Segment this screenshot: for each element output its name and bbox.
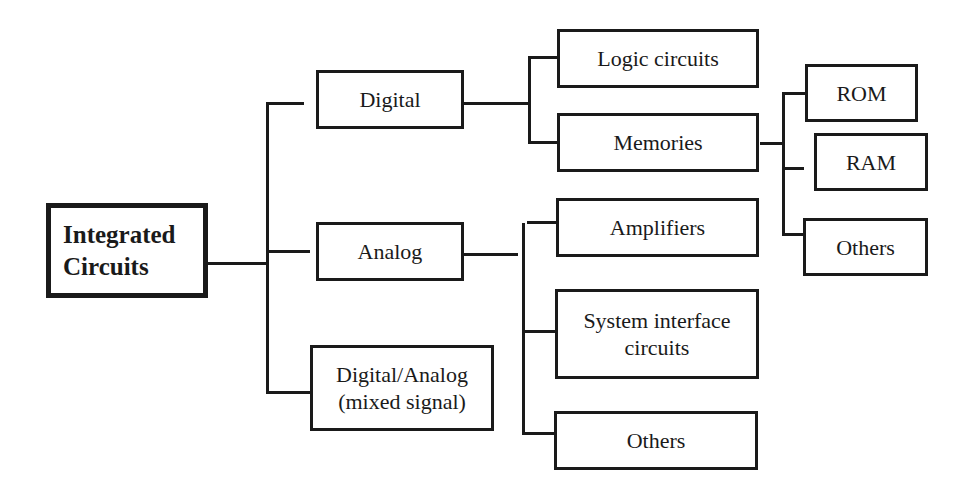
connector-analog-out: [464, 253, 518, 256]
connector-to-mixed: [266, 391, 312, 394]
connector-digital-out: [464, 102, 530, 105]
connector-to-rom: [782, 92, 806, 95]
node-analog: Analog: [316, 222, 464, 281]
node-label: System interface circuits: [583, 307, 730, 361]
connector-to-analog: [266, 250, 310, 253]
connector-memories-vertical: [782, 92, 785, 236]
connector-to-analog-others: [522, 432, 556, 435]
node-label: Digital: [359, 86, 420, 113]
node-logic-circuits: Logic circuits: [557, 29, 759, 88]
connector-to-amplifiers: [527, 221, 557, 224]
node-digital: Digital: [316, 70, 464, 129]
node-amplifiers: Amplifiers: [556, 198, 759, 257]
connector-root-trunk: [208, 262, 268, 265]
node-label: Logic circuits: [597, 45, 719, 72]
node-label: Digital/Analog (mixed signal): [336, 361, 468, 415]
node-rom: ROM: [805, 64, 918, 122]
node-memory-others: Others: [803, 218, 928, 276]
connector-to-memories: [528, 141, 558, 144]
node-label: ROM: [836, 80, 886, 107]
connector-to-system-interface: [522, 330, 556, 333]
connector-to-logic: [528, 56, 558, 59]
connector-trunk-vertical: [266, 102, 269, 393]
node-ram: RAM: [814, 133, 928, 191]
node-label: Others: [627, 427, 686, 454]
node-memories: Memories: [557, 113, 759, 172]
node-label: Integrated Circuits: [63, 219, 175, 283]
node-label: Others: [836, 234, 895, 261]
node-label: Analog: [358, 238, 423, 265]
node-mixed-signal: Digital/Analog (mixed signal): [310, 345, 494, 431]
connector-memories-out: [760, 142, 784, 145]
node-label: RAM: [846, 149, 896, 176]
connector-to-ram: [782, 167, 804, 170]
connector-analog-vertical: [522, 223, 525, 435]
node-integrated-circuits: Integrated Circuits: [46, 203, 208, 298]
node-label: Memories: [613, 129, 702, 156]
connector-digital-vertical: [528, 56, 531, 144]
connector-to-digital: [266, 102, 304, 105]
node-label: Amplifiers: [610, 214, 705, 241]
node-analog-others: Others: [554, 411, 758, 470]
node-system-interface-circuits: System interface circuits: [555, 289, 759, 379]
